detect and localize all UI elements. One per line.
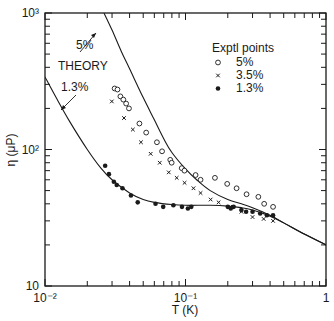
x-marker [199,191,203,195]
legend-label: 3.5% [236,68,264,82]
legend-label: 5% [236,55,254,69]
x-marker [131,128,135,132]
x-marker [158,161,162,165]
y-tick-label: 10 [26,279,40,293]
x-marker [149,152,153,156]
filled-circle-marker [135,200,140,205]
annotations: 5%THEORY1.3% [58,33,108,110]
filled-circle-marker [250,209,255,214]
open-circle-marker [271,204,276,209]
y-axis-label: η (μP) [4,134,18,167]
open-circle-marker [127,106,132,111]
open-circle-marker [155,140,160,145]
y-tick-label: 10³ [22,6,39,20]
filled-circle-marker [216,86,221,91]
legend-label: 1.3% [236,81,264,95]
open-circle-marker [182,168,187,173]
x-marker [110,100,114,104]
filled-circle-marker [107,172,112,177]
filled-circle-marker [161,205,166,210]
x-marker [122,116,126,120]
filled-circle-marker [231,205,236,210]
legend: Exptl points5%3.5%1.3% [212,41,274,95]
viscosity-chart: 10⁻²10⁻¹11010²10³ Exptl points5%3.5%1.3%… [0,0,334,321]
open-circle-marker [169,160,174,165]
open-circle-marker [256,194,261,199]
filled-circle-marker [258,211,263,216]
x-marker [139,140,143,144]
experimental-points [103,86,276,223]
filled-circle-marker [180,205,185,210]
open-circle-marker [234,186,239,191]
open-circle-marker [225,181,230,186]
x-marker [167,171,171,175]
x-marker [217,201,221,205]
x-marker [271,219,275,223]
open-circle-marker [115,87,120,92]
filled-circle-marker [114,183,119,188]
y-tick-label: 10² [22,143,39,157]
open-circle-marker [198,177,203,182]
x-marker [251,215,255,219]
filled-circle-marker [244,209,249,214]
open-circle-marker [216,60,221,65]
x-marker [175,176,179,180]
open-circle-marker [244,192,249,197]
x-axis-label: T (K) [172,303,198,317]
annotation-theory: THEORY [58,59,108,73]
open-circle-marker [160,149,165,154]
filled-circle-marker [103,163,108,168]
open-circle-marker [213,175,218,180]
legend-title: Exptl points [212,41,274,55]
filled-circle-marker [129,193,134,198]
x-tick-label: 1 [323,291,330,305]
annotation-5pct: 5% [76,38,94,52]
open-circle-marker [193,173,198,178]
filled-circle-marker [265,213,270,218]
filled-circle-marker [271,213,276,218]
x-marker [216,74,220,78]
filled-circle-marker [120,186,125,191]
open-circle-marker [137,121,142,126]
open-circle-marker [262,201,267,206]
open-circle-marker [144,130,149,135]
filled-circle-marker [239,208,244,213]
open-circle-marker [124,101,129,106]
x-tick-label: 10⁻² [33,291,56,305]
filled-circle-marker [171,203,176,208]
tick-labels: 10⁻²10⁻¹11010²10³ [22,6,330,305]
filled-circle-marker [153,202,158,207]
x-marker [183,181,187,185]
x-marker [192,186,196,190]
x-marker [209,198,213,202]
theory-curve [45,77,326,245]
x-marker [262,217,266,221]
annotation-1-3pct: 1.3% [61,80,89,94]
filled-circle-marker [189,205,194,210]
